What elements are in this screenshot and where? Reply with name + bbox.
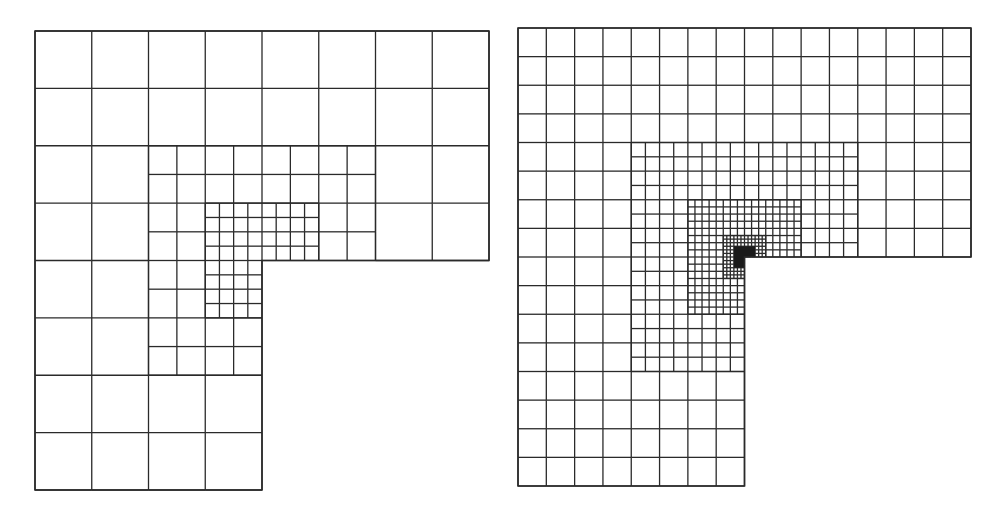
left-mesh-coarse [35, 31, 489, 490]
right-mesh-fine [518, 28, 971, 486]
mesh-figure [0, 0, 1006, 507]
